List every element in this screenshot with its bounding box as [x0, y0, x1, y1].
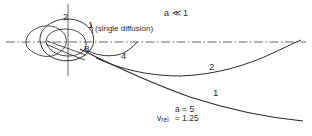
v-rel-subscript: rel	[161, 116, 169, 123]
curve-2-path	[96, 40, 301, 76]
label-curve-2-right: 2	[209, 62, 214, 72]
curve-4-path	[84, 42, 137, 56]
figure-container: 2 1 (single diffusion) 8 4 a ≪ 1 2 1 a =…	[0, 0, 312, 136]
v-rel-value: = 1.25	[175, 113, 199, 123]
label-curve-1-upper: 1	[88, 20, 93, 30]
label-parameter-v-rel: vrel= 1.25	[157, 114, 199, 124]
label-condition-a-much-less-than-1: a ≪ 1	[164, 9, 188, 18]
label-curve-1-right: 1	[213, 88, 218, 98]
label-loop-2: 2	[63, 12, 68, 22]
label-single-diffusion: (single diffusion)	[95, 25, 153, 33]
label-loop-8: 8	[84, 44, 89, 54]
label-curve-4: 4	[121, 51, 126, 61]
trajectory-plot	[0, 0, 312, 136]
